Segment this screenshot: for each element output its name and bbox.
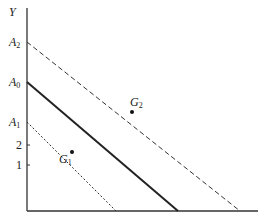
label-tick-2: 2 — [16, 138, 22, 152]
point-g1 — [70, 150, 74, 154]
budget-line-diagram: Y X O A2 A0 A1 2 1 B1 B0 B2 G2 G1 — [0, 0, 274, 214]
label-a1: A1 — [8, 115, 20, 130]
label-a2: A2 — [8, 35, 20, 50]
label-g1: G1 — [59, 152, 72, 167]
label-a0: A0 — [8, 75, 20, 90]
label-tick-1: 1 — [16, 158, 22, 172]
x-axis-label: X — [255, 211, 264, 214]
label-g2: G2 — [130, 95, 143, 110]
point-g2 — [130, 110, 134, 114]
line-a2-b2 — [27, 42, 240, 211]
origin-label: O — [12, 211, 21, 214]
y-axis-label: Y — [9, 5, 17, 19]
